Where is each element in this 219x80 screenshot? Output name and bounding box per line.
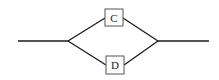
branch-upper-right <box>123 18 158 41</box>
node-c-label: C <box>110 12 117 24</box>
node-c: C <box>105 9 123 26</box>
branch-lower-right <box>124 41 158 65</box>
parallel-diagram: C D <box>0 0 219 80</box>
node-d: D <box>106 56 124 74</box>
node-d-label: D <box>111 59 119 71</box>
branch-lower-left <box>68 41 106 65</box>
branch-upper-left <box>68 18 105 41</box>
